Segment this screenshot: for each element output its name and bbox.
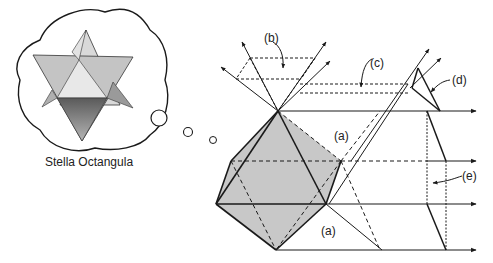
- label-c: (c): [370, 56, 384, 70]
- label-d: (d): [452, 73, 467, 87]
- cone-d: [329, 49, 450, 204]
- label-a-bottom: (a): [321, 224, 336, 238]
- label-a-top: (a): [334, 129, 349, 143]
- label-e: (e): [462, 169, 477, 183]
- thought-bubble: Stella Octangula: [17, 9, 217, 169]
- label-b: (b): [264, 31, 279, 45]
- prism-e: [427, 111, 462, 250]
- cone-b: [221, 42, 330, 111]
- bubble-dot-large: [151, 110, 167, 126]
- diagram: Stella Octangula: [0, 0, 493, 263]
- bubble-dot-medium: [184, 128, 193, 137]
- band-c: [300, 59, 408, 93]
- caption: Stella Octangula: [45, 155, 133, 169]
- bubble-dot-small: [210, 137, 217, 144]
